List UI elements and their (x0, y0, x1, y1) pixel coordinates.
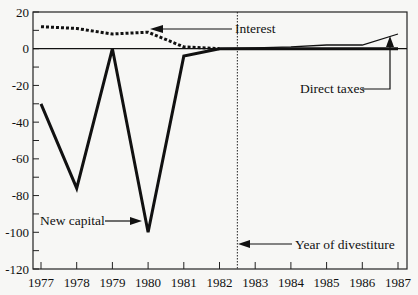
x-tick-label: 1987 (385, 275, 412, 290)
y-tick-label: -120 (5, 262, 29, 277)
x-tick-label: 1979 (99, 275, 125, 290)
y-tick-label: 20 (16, 5, 29, 20)
chart-canvas: 200-20-40-60-80-100-120 1977197819791980… (0, 0, 418, 295)
x-tick-label: 1983 (242, 275, 268, 290)
arrow-left-icon (150, 25, 163, 33)
new-capital-annotation: New capital (40, 213, 142, 228)
series-new-capital (41, 49, 398, 233)
y-tick-label: -80 (12, 188, 29, 203)
interest-annotation: Interest (150, 21, 276, 36)
y-tick-label: -100 (5, 225, 29, 240)
x-tick-label: 1980 (135, 275, 161, 290)
y-axis: 200-20-40-60-80-100-120 (5, 5, 39, 277)
x-tick-label: 1982 (207, 275, 233, 290)
series-direct-taxes (220, 34, 399, 49)
x-tick-label: 1978 (64, 275, 90, 290)
new-capital-label: New capital (40, 213, 105, 228)
y-tick-label: -20 (12, 78, 29, 93)
x-axis: 1977197819791980198119821983198419851986… (28, 262, 412, 290)
y-tick-label: -60 (12, 151, 29, 166)
x-tick-label: 1985 (314, 275, 340, 290)
arrow-left-icon (238, 240, 250, 248)
arrow-right-icon (130, 217, 142, 225)
series-interest (41, 27, 220, 49)
x-tick-label: 1984 (278, 275, 305, 290)
divestiture-annotation: Year of divestiture (238, 237, 395, 252)
x-tick-label: 1977 (28, 275, 55, 290)
y-tick-label: -40 (12, 115, 29, 130)
x-tick-label: 1986 (349, 275, 376, 290)
interest-label: Interest (235, 21, 276, 36)
direct-taxes-label: Direct taxes (300, 81, 365, 96)
x-tick-label: 1981 (171, 275, 197, 290)
divestiture-label: Year of divestiture (295, 237, 395, 252)
y-tick-label: 0 (23, 41, 30, 56)
